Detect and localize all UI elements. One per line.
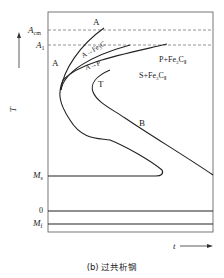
bainite-curve bbox=[92, 70, 213, 175]
s-plus-fe3c-label: S+Fe3CⅡ bbox=[139, 71, 166, 81]
a1-label: A1 bbox=[35, 40, 45, 51]
a-to-fe3c-label: A→Fe3C bbox=[80, 40, 107, 61]
y-axis-arrowhead-icon bbox=[17, 32, 21, 38]
austenite-top-label: A bbox=[93, 17, 100, 27]
figure-caption: (b) 过共析钢 bbox=[87, 262, 138, 272]
ttt-diagram: T t Acm A1 Ms 0 Mf A A A→Fe3C A→P P+Fe3C… bbox=[0, 0, 224, 278]
troostite-label: T bbox=[98, 79, 104, 89]
y-axis-label: T bbox=[8, 106, 18, 112]
x-axis-label: t bbox=[173, 241, 176, 251]
bainite-label: B bbox=[139, 118, 145, 128]
pearlite-finish-curve bbox=[48, 44, 167, 176]
x-axis-arrowhead-icon bbox=[207, 244, 213, 248]
mf-label: Mf bbox=[32, 218, 43, 229]
zero-label: 0 bbox=[39, 206, 43, 215]
acm-label: Acm bbox=[27, 25, 41, 36]
p-plus-fe3c-label: P+Fe3CⅡ bbox=[159, 55, 186, 65]
ms-label: Ms bbox=[32, 170, 44, 181]
austenite-left-label: A bbox=[52, 58, 59, 68]
a-to-p-label: A→P bbox=[84, 59, 102, 72]
